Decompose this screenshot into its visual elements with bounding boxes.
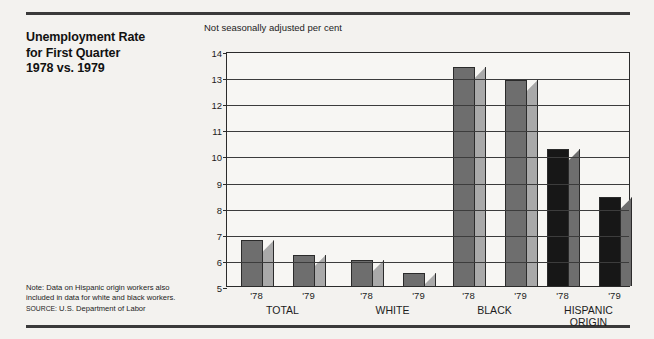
bar-white-79 [403, 273, 425, 286]
bar-side-face [475, 67, 486, 286]
bar-side-face [373, 260, 384, 286]
x-year-label: '78 [250, 290, 262, 301]
y-tick-mark [223, 79, 227, 80]
y-tick-mark [223, 53, 227, 54]
source-line: SOURCE: U.S. Department of Labor [26, 304, 204, 314]
y-tick-mark [223, 262, 227, 263]
y-tick-label: 8 [217, 204, 222, 215]
x-group-label-line: TOTAL [266, 304, 299, 316]
x-group-label-line: BLACK [477, 304, 511, 316]
y-tick-mark [223, 288, 227, 289]
footnote-block: Note: Data on Hispanic origin workers al… [26, 283, 204, 313]
y-tick-label: 11 [212, 126, 222, 137]
gridline [227, 262, 629, 263]
note-line-1: Note: Data on Hispanic origin workers al… [26, 283, 204, 293]
bar-side-face [425, 273, 436, 286]
bar-front-face [293, 255, 315, 286]
x-year-label: '79 [302, 290, 314, 301]
x-group-label-line: HISPANIC [564, 304, 613, 316]
y-tick-mark [223, 157, 227, 158]
y-tick-label: 5 [217, 283, 222, 294]
x-group-label-black: BLACK [477, 304, 511, 316]
bar-front-face [351, 260, 373, 286]
bar-front-face [241, 240, 263, 286]
x-group-label-line: WHITE [376, 304, 410, 316]
y-tick-mark [223, 184, 227, 185]
title-line-3: 1978 vs. 1979 [26, 61, 191, 77]
y-tick-mark [223, 105, 227, 106]
gridline [227, 157, 629, 158]
x-axis-labels: '78'79'78'79'78'79'78'79TOTALWHITEBLACKH… [226, 290, 630, 339]
y-tick-mark [223, 236, 227, 237]
chart: Not seasonally adjusted per cent 5678910… [200, 22, 640, 322]
gridline [227, 184, 629, 185]
bar-side-face [315, 255, 326, 286]
x-year-label: '78 [360, 290, 372, 301]
source-text: U.S. Department of Labor [59, 304, 146, 313]
bar-hispanic-origin-78 [547, 149, 569, 286]
x-group-label-hispanic-origin: HISPANICORIGIN [564, 304, 613, 328]
y-tick-mark [223, 131, 227, 132]
gridline [227, 210, 629, 211]
x-year-label: '78 [462, 290, 474, 301]
y-tick-label: 9 [217, 178, 222, 189]
bar-black-78 [453, 67, 475, 286]
note-line-2: included in data for white and black wor… [26, 293, 204, 303]
x-group-label-line: ORIGIN [564, 316, 613, 328]
bar-total-79 [293, 255, 315, 286]
chart-subtitle: Not seasonally adjusted per cent [204, 22, 342, 33]
x-group-label-white: WHITE [376, 304, 410, 316]
plot-area: 567891011121314 [226, 52, 630, 287]
gridline [227, 79, 629, 80]
bar-total-78 [241, 240, 263, 286]
x-year-label: '79 [608, 290, 620, 301]
y-tick-label: 7 [217, 230, 222, 241]
y-tick-label: 13 [211, 74, 222, 85]
x-year-label: '79 [514, 290, 526, 301]
y-tick-label: 10 [211, 152, 222, 163]
bar-front-face [403, 273, 425, 286]
y-tick-label: 12 [211, 100, 222, 111]
x-year-label: '78 [556, 290, 568, 301]
bars-layer [227, 53, 629, 286]
title-line-2: for First Quarter [26, 46, 191, 62]
y-tick-label: 6 [217, 256, 222, 267]
bar-side-face [263, 240, 274, 286]
bar-white-78 [351, 260, 373, 286]
source-prefix: SOURCE: [26, 305, 57, 312]
page-title: Unemployment Rate for First Quarter 1978… [26, 30, 191, 77]
y-tick-label: 14 [211, 48, 222, 59]
bar-side-face [569, 149, 580, 286]
bar-front-face [453, 67, 475, 286]
x-group-label-total: TOTAL [266, 304, 299, 316]
x-year-label: '79 [412, 290, 424, 301]
gridline [227, 236, 629, 237]
top-divider-rule [26, 12, 630, 15]
gridline [227, 131, 629, 132]
title-line-1: Unemployment Rate [26, 30, 191, 46]
bar-front-face [547, 149, 569, 286]
chart-page: Unemployment Rate for First Quarter 1978… [0, 0, 654, 339]
gridline [227, 105, 629, 106]
y-tick-mark [223, 210, 227, 211]
